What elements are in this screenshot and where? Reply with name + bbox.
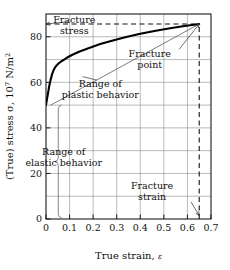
x-tick-label: 0.7 [203, 222, 218, 233]
x-axis-title: True strain, ε [95, 250, 162, 261]
x-tick-label: 0.3 [109, 222, 124, 233]
x-tick-label: 0.5 [156, 222, 171, 233]
y-tick-label: 80 [30, 31, 42, 42]
stress-strain-chart: 00.10.20.30.40.50.60.7 020406080 Fractur… [0, 0, 230, 270]
y-tick-label: 40 [30, 122, 42, 133]
y-tick-label: 0 [36, 213, 42, 224]
y-axis-title: (True) stress σ, 107 N/m2 [4, 53, 15, 180]
x-tick-label: 0.2 [86, 222, 101, 233]
stress-strain-figure: 00.10.20.30.40.50.60.7 020406080 Fractur… [0, 0, 230, 270]
x-tick-label: 0.1 [62, 222, 77, 233]
x-tick-label: 0.6 [180, 222, 195, 233]
y-tick-label: 20 [30, 168, 42, 179]
y-tick-label: 60 [30, 77, 42, 88]
x-tick-label: 0.4 [133, 222, 148, 233]
x-tick-label: 0 [43, 222, 49, 233]
